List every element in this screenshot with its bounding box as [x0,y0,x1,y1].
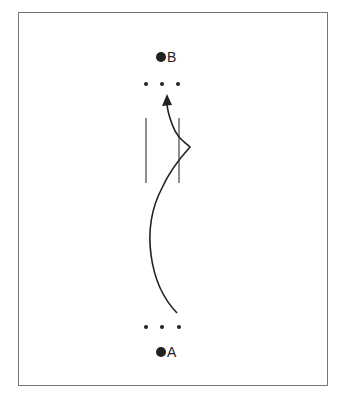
point-a-label: A [167,345,176,359]
dots-row-top [144,82,180,86]
arrowhead-icon [162,94,172,106]
point-b-label: B [167,50,176,64]
curved-path-arrow [150,102,190,313]
point-a-dot [156,347,166,357]
dots-row-bottom [144,325,181,329]
point-b-dot [156,52,166,62]
